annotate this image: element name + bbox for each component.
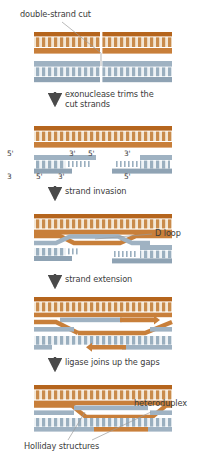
polarity-p2-right-bot-5: 5' <box>124 172 130 181</box>
label-double-strand-cut: double-strand cut <box>20 9 91 19</box>
step-label-exonuclease: exonuclease trims the cut strands <box>65 89 161 109</box>
polarity-p2-left-top-5: 5' <box>7 149 13 158</box>
panel-5-holliday <box>34 385 172 440</box>
panel-4-strand-extension <box>34 297 172 352</box>
step-exonuclease-line1: exonuclease trims the <box>65 89 154 99</box>
polarity-p2-right-bot-3: 3' <box>58 172 64 181</box>
panel-1-duplexes <box>34 22 172 84</box>
figure-canvas: double-strand cut exonuclease trims the … <box>0 0 201 462</box>
label-d-loop: D loop <box>155 228 181 238</box>
step-label-strand-invasion: strand invasion <box>65 186 126 196</box>
polarity-p2-right-top-3: 3' <box>124 149 130 158</box>
polarity-p2-right-top-5: 5' <box>88 149 94 158</box>
polarity-p2-left-bot-5: 5' <box>36 172 42 181</box>
label-holliday-structures: Holliday structures <box>24 441 99 451</box>
polarity-p2-left-bot-3: 3 <box>7 172 12 181</box>
polarity-p2-left-top-3: 3' <box>69 149 75 158</box>
panel-3-d-loop <box>34 214 172 263</box>
step-label-ligase: ligase joins up the gaps <box>65 357 160 367</box>
step-exonuclease-line2: cut strands <box>65 99 110 109</box>
label-heteroduplex: heteroduplex <box>134 398 187 408</box>
panel-2-resection <box>34 126 172 174</box>
step-label-strand-extension: strand extension <box>65 274 132 284</box>
